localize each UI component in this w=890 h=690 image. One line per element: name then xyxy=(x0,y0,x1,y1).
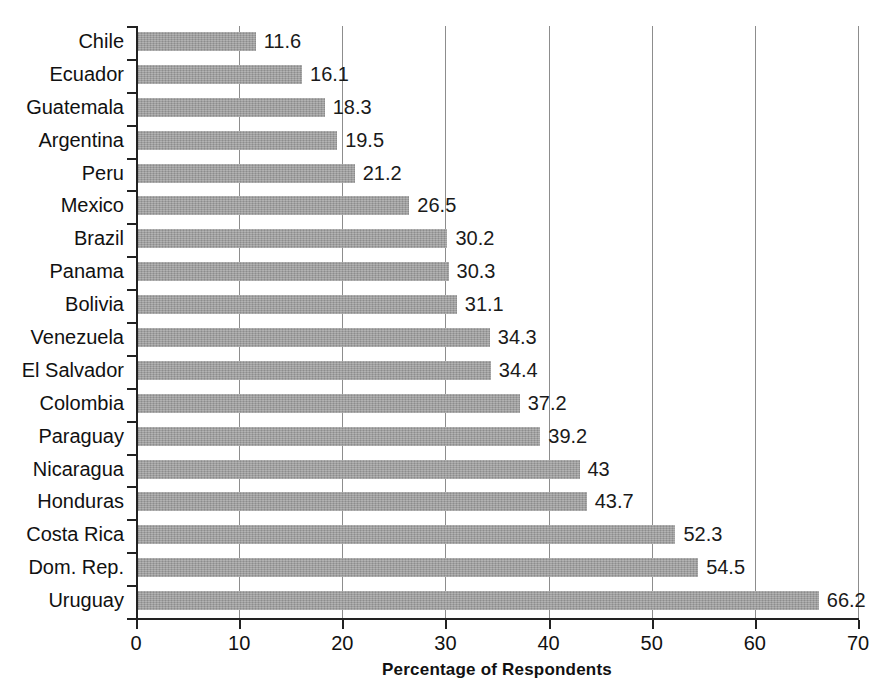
y-axis-tick xyxy=(127,585,136,587)
bar-row: 37.2 xyxy=(136,388,858,419)
x-axis-tick xyxy=(858,620,860,629)
category-label: Dom. Rep. xyxy=(0,555,124,580)
bar-row: 31.1 xyxy=(136,289,858,320)
x-axis-tick-label: 70 xyxy=(828,630,888,656)
bar xyxy=(136,262,449,281)
y-axis-tick xyxy=(127,256,136,258)
x-axis-line xyxy=(136,618,859,620)
y-axis-line xyxy=(136,26,138,619)
bar-value-label: 43 xyxy=(588,457,610,482)
bar-row: 19.5 xyxy=(136,125,858,156)
x-axis-tick-label: 40 xyxy=(519,630,579,656)
y-axis-tick xyxy=(127,618,136,620)
bar-row: 21.2 xyxy=(136,158,858,189)
y-axis-tick xyxy=(127,190,136,192)
x-axis-tick xyxy=(652,620,654,629)
y-axis-tick xyxy=(127,223,136,225)
y-axis-tick xyxy=(127,421,136,423)
category-label: Honduras xyxy=(0,489,124,514)
bar-value-label: 43.7 xyxy=(595,489,634,514)
bar-value-label: 39.2 xyxy=(548,424,587,449)
category-label: Peru xyxy=(0,161,124,186)
bar xyxy=(136,164,355,183)
bar xyxy=(136,394,520,413)
bar-value-label: 21.2 xyxy=(363,161,402,186)
y-axis-tick xyxy=(127,322,136,324)
x-axis-tick-label: 30 xyxy=(415,630,475,656)
bar-value-label: 31.1 xyxy=(465,292,504,317)
bar-value-label: 19.5 xyxy=(345,128,384,153)
bar-value-label: 16.1 xyxy=(310,62,349,87)
x-axis-title: Percentage of Respondents xyxy=(136,660,858,680)
bar-value-label: 34.3 xyxy=(498,325,537,350)
bar xyxy=(136,295,457,314)
y-axis-tick xyxy=(127,552,136,554)
x-axis-tick xyxy=(239,620,241,629)
category-label: Ecuador xyxy=(0,62,124,87)
bar xyxy=(136,525,675,544)
x-axis-tick-label: 20 xyxy=(312,630,372,656)
bar-row: 26.5 xyxy=(136,190,858,221)
bar-row: 30.3 xyxy=(136,256,858,287)
category-label: Venezuela xyxy=(0,325,124,350)
category-label: El Salvador xyxy=(0,358,124,383)
bar-value-label: 34.4 xyxy=(499,358,538,383)
x-axis-tick xyxy=(342,620,344,629)
category-label: Mexico xyxy=(0,193,124,218)
y-axis-tick xyxy=(127,486,136,488)
x-axis-tick xyxy=(549,620,551,629)
x-axis-tick xyxy=(445,620,447,629)
y-axis-tick xyxy=(127,26,136,28)
category-label: Colombia xyxy=(0,391,124,416)
bar xyxy=(136,328,490,347)
bar xyxy=(136,558,698,577)
category-label: Argentina xyxy=(0,128,124,153)
x-axis-tick xyxy=(755,620,757,629)
bar-row: 11.6 xyxy=(136,26,858,57)
x-axis-tick-label: 60 xyxy=(725,630,785,656)
bar xyxy=(136,591,819,610)
plot-area: 11.616.118.319.521.226.530.230.331.134.3… xyxy=(136,26,858,618)
bar-row: 34.4 xyxy=(136,355,858,386)
bar xyxy=(136,361,491,380)
category-label: Uruguay xyxy=(0,588,124,613)
bar xyxy=(136,196,409,215)
x-axis-tick-label: 50 xyxy=(622,630,682,656)
bar-chart: 11.616.118.319.521.226.530.230.331.134.3… xyxy=(0,0,890,690)
bar xyxy=(136,131,337,150)
x-axis-tick-label: 0 xyxy=(106,630,166,656)
bar xyxy=(136,460,580,479)
bar xyxy=(136,492,587,511)
bar xyxy=(136,427,540,446)
bar-value-label: 66.2 xyxy=(827,588,866,613)
bar-row: 34.3 xyxy=(136,322,858,353)
x-axis-tick-label: 10 xyxy=(209,630,269,656)
y-axis-tick xyxy=(127,125,136,127)
bar-value-label: 18.3 xyxy=(333,95,372,120)
bar-value-label: 11.6 xyxy=(264,29,301,54)
bar-row: 43.7 xyxy=(136,486,858,517)
bar-row: 16.1 xyxy=(136,59,858,90)
bar-row: 43 xyxy=(136,454,858,485)
bar xyxy=(136,229,447,248)
x-axis-tick-labels: 010203040506070 xyxy=(0,630,890,656)
category-label: Bolivia xyxy=(0,292,124,317)
y-axis-tick xyxy=(127,289,136,291)
bar-value-label: 52.3 xyxy=(683,522,722,547)
y-axis-tick xyxy=(127,158,136,160)
bar-row: 54.5 xyxy=(136,552,858,583)
bar xyxy=(136,98,325,117)
bar-row: 30.2 xyxy=(136,223,858,254)
x-axis-tick xyxy=(136,620,138,629)
bar-row: 39.2 xyxy=(136,421,858,452)
bar-row: 52.3 xyxy=(136,519,858,550)
y-axis-tick xyxy=(127,355,136,357)
y-axis-tick xyxy=(127,519,136,521)
category-label: Nicaragua xyxy=(0,457,124,482)
y-axis-tick xyxy=(127,92,136,94)
category-label: Panama xyxy=(0,259,124,284)
bar-value-label: 30.2 xyxy=(455,226,494,251)
bar-value-label: 30.3 xyxy=(457,259,496,284)
y-axis-tick xyxy=(127,454,136,456)
y-axis-tick xyxy=(127,388,136,390)
